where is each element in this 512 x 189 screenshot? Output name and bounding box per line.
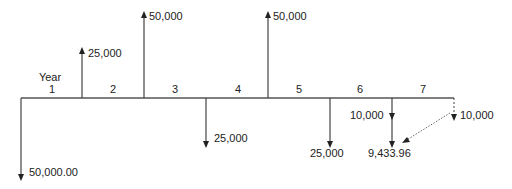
cash-flow-label-t3: 25,000	[214, 132, 248, 144]
cash-flow-label-t4: 50,000	[273, 10, 307, 22]
period-label-2: 2	[110, 83, 116, 95]
arrowhead-up-icon	[265, 11, 271, 18]
period-label-5: 5	[296, 83, 302, 95]
cash-flow-diagram: Year 1 2 3 4 5 6 7 50,000.00 25,000 50,0…	[0, 0, 512, 189]
combined-value-label: 9,433.96	[368, 147, 411, 159]
arrowhead-down-icon	[389, 113, 395, 120]
period-label-7: 7	[420, 83, 426, 95]
period-label-4: 4	[235, 83, 241, 95]
discount-arrow	[405, 113, 450, 141]
arrowhead-down-icon	[451, 114, 457, 121]
cash-flow-label-t6: 10,000	[350, 109, 384, 121]
arrowhead-down-icon	[203, 141, 209, 148]
cash-flow-label-t1: 25,000	[88, 47, 122, 59]
period-label-1: 1	[49, 83, 55, 95]
cash-flow-label-t5: 25,000	[310, 147, 344, 159]
arrowhead-down-icon	[18, 174, 24, 181]
period-label-6: 6	[357, 83, 363, 95]
cash-flow-label-t0: 50,000.00	[29, 166, 78, 178]
cash-flow-label-t7: 10,000	[460, 109, 494, 121]
axis-label-year: Year	[39, 71, 62, 83]
arrowhead-up-icon	[141, 11, 147, 18]
arrowhead-up-icon	[79, 47, 85, 54]
arrowhead-diagonal-icon	[402, 137, 410, 143]
cash-flow-label-t2: 50,000	[149, 10, 183, 22]
period-label-3: 3	[172, 83, 178, 95]
